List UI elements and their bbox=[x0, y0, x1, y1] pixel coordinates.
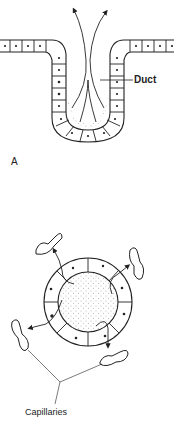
secretion-arrows bbox=[72, 10, 106, 122]
panel-a-label: A bbox=[11, 156, 18, 167]
secretion-stipple bbox=[67, 95, 109, 128]
endocrine-follicle bbox=[44, 258, 132, 346]
capillaries-leader-lines bbox=[28, 350, 102, 404]
capillaries-label: Capillaries bbox=[25, 407, 67, 417]
gland-diagram bbox=[0, 0, 174, 431]
duct-label: Duct bbox=[134, 74, 156, 85]
